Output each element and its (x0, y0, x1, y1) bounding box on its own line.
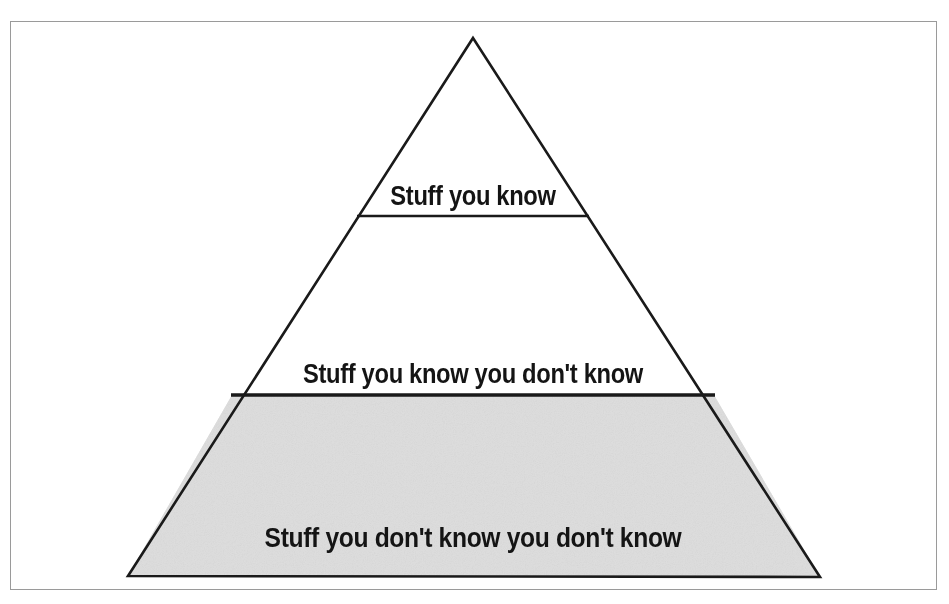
pyramid-tier-top-label: Stuff you know (306, 183, 640, 210)
pyramid-tier-middle-label: Stuff you know you don't know (227, 361, 720, 388)
pyramid-diagram: Stuff you know Stuff you know you don't … (0, 0, 949, 604)
pyramid-svg (0, 0, 949, 604)
pyramid-tier-bottom-label: Stuff you don't know you don't know (209, 524, 737, 552)
figure-root: Stuff you know Stuff you know you don't … (0, 0, 949, 604)
